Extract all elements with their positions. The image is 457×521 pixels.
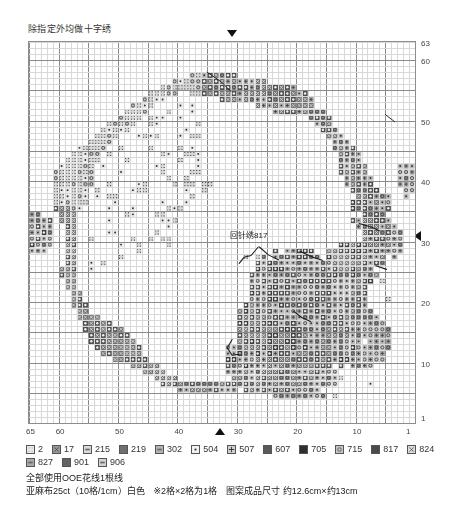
legend-row: 217215219302504507607705715817824 xyxy=(26,444,446,454)
legend-item-906: 906 xyxy=(98,457,125,467)
legend-code-215: 215 xyxy=(95,444,110,454)
legend-swatch-607 xyxy=(263,445,272,454)
y-axis-tick-30: 30 xyxy=(421,240,430,248)
top-note: 除指定外均做十字绣 xyxy=(28,22,112,35)
x-axis-tick-60: 60 xyxy=(56,428,65,436)
legend-code-715: 715 xyxy=(347,444,362,454)
legend-code-817: 817 xyxy=(383,444,398,454)
legend-code-906: 906 xyxy=(110,457,125,467)
x-axis-tick-1: 1 xyxy=(406,428,410,436)
y-axis-tick-60: 60 xyxy=(421,58,430,66)
x-axis-tick-10: 10 xyxy=(353,428,362,436)
legend-code-219: 219 xyxy=(131,444,146,454)
legend-item-824: 824 xyxy=(407,444,434,454)
x-axis-tick-30: 30 xyxy=(234,428,243,436)
legend-code-17: 17 xyxy=(64,444,74,454)
y-axis-tick-63: 63 xyxy=(421,40,430,48)
legend-code-607: 607 xyxy=(275,444,290,454)
legend-swatch-302 xyxy=(155,445,164,454)
legend-swatch-901 xyxy=(62,458,71,467)
legend-item-705: 705 xyxy=(299,444,326,454)
legend-item-817: 817 xyxy=(371,444,398,454)
x-axis-tick-65: 65 xyxy=(26,428,35,436)
legend-item-715: 715 xyxy=(335,444,362,454)
y-axis-tick-1: 1 xyxy=(421,415,425,423)
legend-swatch-824 xyxy=(407,445,416,454)
legend-swatch-715 xyxy=(335,445,344,454)
legend-code-901: 901 xyxy=(74,457,89,467)
y-axis-tick-20: 20 xyxy=(421,300,430,308)
fabric-note: 亚麻布25ct（10格/1cm）白色 ※2格×2格为1格 图案成品尺寸 约12.… xyxy=(26,485,451,498)
x-axis-tick-40: 40 xyxy=(174,428,183,436)
legend-item-17: 17 xyxy=(52,444,74,454)
bottom-center-marker xyxy=(215,428,225,435)
top-center-marker xyxy=(227,30,237,37)
cross-stitch-pattern-page: 除指定外均做十字绣 回针绣817 636050403020101 6560504… xyxy=(0,0,457,521)
legend-item-215: 215 xyxy=(83,444,110,454)
legend-code-507: 507 xyxy=(239,444,254,454)
backstitch-lines-layer xyxy=(29,42,415,423)
color-legend: 217215219302504507607705715817824 827901… xyxy=(26,444,446,470)
footnotes: 全部使用OOE花线1根线 亚麻布25ct（10格/1cm）白色 ※2格×2格为1… xyxy=(26,472,451,498)
legend-swatch-817 xyxy=(371,445,380,454)
legend-swatch-827 xyxy=(26,458,35,467)
legend-swatch-215 xyxy=(83,445,92,454)
thread-note: 全部使用OOE花线1根线 xyxy=(26,472,451,485)
legend-code-302: 302 xyxy=(167,444,182,454)
legend-code-2: 2 xyxy=(38,444,43,454)
legend-swatch-507 xyxy=(227,445,236,454)
x-axis-tick-50: 50 xyxy=(115,428,124,436)
legend-item-607: 607 xyxy=(263,444,290,454)
legend-code-504: 504 xyxy=(203,444,218,454)
legend-item-302: 302 xyxy=(155,444,182,454)
legend-item-219: 219 xyxy=(119,444,146,454)
legend-swatch-219 xyxy=(119,445,128,454)
legend-item-504: 504 xyxy=(191,444,218,454)
pattern-grid[interactable] xyxy=(28,41,416,424)
legend-item-901: 901 xyxy=(62,457,89,467)
x-axis-tick-20: 20 xyxy=(293,428,302,436)
y-axis-tick-10: 10 xyxy=(421,361,430,369)
legend-swatch-906 xyxy=(98,458,107,467)
legend-swatch-504 xyxy=(191,445,200,454)
legend-swatch-17 xyxy=(52,445,61,454)
legend-item-507: 507 xyxy=(227,444,254,454)
legend-code-827: 827 xyxy=(38,457,53,467)
y-axis-tick-50: 50 xyxy=(421,119,430,127)
legend-code-705: 705 xyxy=(311,444,326,454)
y-axis-tick-40: 40 xyxy=(421,179,430,187)
legend-swatch-705 xyxy=(299,445,308,454)
legend-code-824: 824 xyxy=(419,444,434,454)
legend-item-2: 2 xyxy=(26,444,43,454)
backstitch-annotation: 回针绣817 xyxy=(230,229,267,240)
legend-item-827: 827 xyxy=(26,457,53,467)
legend-row: 827901906 xyxy=(26,457,446,467)
legend-swatch-2 xyxy=(26,445,35,454)
